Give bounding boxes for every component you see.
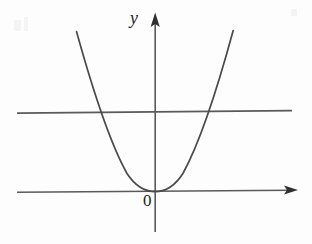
origin-label: 0 [143,192,152,209]
y-axis-label: y [130,9,138,27]
plot-area [0,0,312,244]
figure-canvas: y 0 [0,0,312,244]
